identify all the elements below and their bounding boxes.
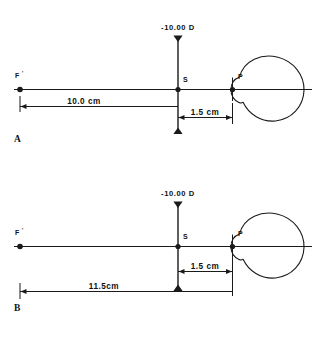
dim-arrow-left-vertex-b bbox=[179, 269, 185, 274]
dim-label-focal-a: 10.0 cm bbox=[67, 97, 101, 106]
lens-vertex-label-b: S bbox=[183, 233, 188, 240]
dim-label-focal-b: 11.5cm bbox=[89, 282, 119, 291]
dim-arrow-focal-a bbox=[21, 104, 27, 109]
panel-b: -10.00 D S F ' P bbox=[14, 189, 312, 313]
figure-canvas: -10.00 D S F ' P 10.0 c bbox=[0, 0, 317, 337]
lens-top-arrowhead-a bbox=[173, 36, 182, 43]
lens-top-arrowhead-b bbox=[173, 202, 182, 209]
cornea-vertex-point-a bbox=[230, 87, 235, 92]
cornea-vertex-label-a: P bbox=[238, 73, 243, 80]
dim-arrow-focal-b bbox=[21, 289, 27, 294]
focal-point-prime-b: ' bbox=[22, 227, 23, 233]
focal-point-label-b: F bbox=[15, 229, 20, 236]
lens-vertex-label-a: S bbox=[183, 76, 188, 83]
lens-power-label-b: -10.00 D bbox=[161, 189, 195, 198]
focal-point-label-a: F bbox=[15, 72, 20, 79]
lens-vertex-point-a bbox=[175, 87, 180, 92]
focal-point-b bbox=[17, 244, 23, 250]
optical-diagram-figure: -10.00 D S F ' P 10.0 c bbox=[0, 0, 317, 337]
panel-a: -10.00 D S F ' P 10.0 c bbox=[14, 23, 312, 144]
panel-label-a: A bbox=[14, 134, 21, 144]
dim-label-vertex-b: 1.5 cm bbox=[191, 262, 220, 271]
eye-globe-a bbox=[240, 56, 305, 121]
lens-bottom-arrowhead-b bbox=[173, 284, 182, 291]
lens-vertex-point-b bbox=[175, 244, 180, 249]
cornea-vertex-label-b: P bbox=[238, 230, 243, 237]
focal-point-prime-a: ' bbox=[22, 70, 23, 76]
panel-label-b: B bbox=[14, 303, 21, 313]
lens-power-label-a: -10.00 D bbox=[161, 23, 195, 32]
cornea-vertex-point-b bbox=[230, 244, 235, 249]
lens-bottom-arrowhead-a bbox=[173, 127, 182, 134]
eye-globe-b bbox=[240, 213, 305, 278]
focal-point-a bbox=[17, 87, 23, 93]
dim-arrow-left-vertex-a bbox=[179, 115, 185, 120]
dim-arrow-right-vertex-a bbox=[226, 115, 232, 120]
dim-arrow-right-vertex-b bbox=[226, 269, 232, 274]
dim-label-vertex-a: 1.5 cm bbox=[191, 108, 220, 117]
